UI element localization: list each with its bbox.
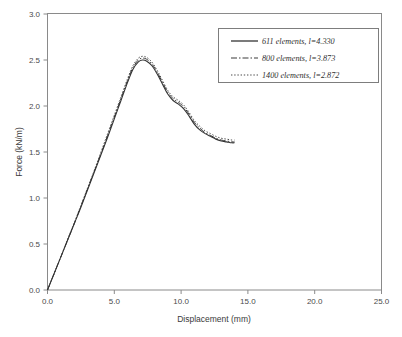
y-tick-label: 1.5 (29, 148, 41, 157)
x-tick-label: 10.0 (173, 297, 189, 306)
legend-label-1: 800 elements, l=3.873 (262, 54, 335, 63)
legend-label-2: 1400 elements, l=2.872 (262, 71, 339, 80)
y-tick-label: 1.0 (29, 194, 41, 203)
y-tick-label: 0.0 (29, 286, 41, 295)
y-tick-label: 2.0 (29, 102, 41, 111)
force-displacement-chart: 0.0 0.5 1.0 1.5 2.0 2.5 3.0 0.0 5.0 10.0… (0, 0, 402, 337)
y-tick-label: 0.5 (29, 240, 41, 249)
x-tick-label: 5.0 (109, 297, 121, 306)
x-tick-label: 20.0 (307, 297, 323, 306)
x-tick-label: 15.0 (240, 297, 256, 306)
legend: 611 elements, l=4.330 800 elements, l=3.… (219, 29, 379, 83)
x-axis-title: Displacement (mm) (177, 314, 251, 324)
x-tick-label: 0.0 (42, 297, 54, 306)
legend-label-0: 611 elements, l=4.330 (262, 37, 335, 46)
y-axis-title: Force (kN/m) (14, 127, 24, 177)
x-tick-label: 25.0 (374, 297, 390, 306)
y-tick-label: 2.5 (29, 56, 41, 65)
y-tick-label: 3.0 (29, 10, 41, 19)
